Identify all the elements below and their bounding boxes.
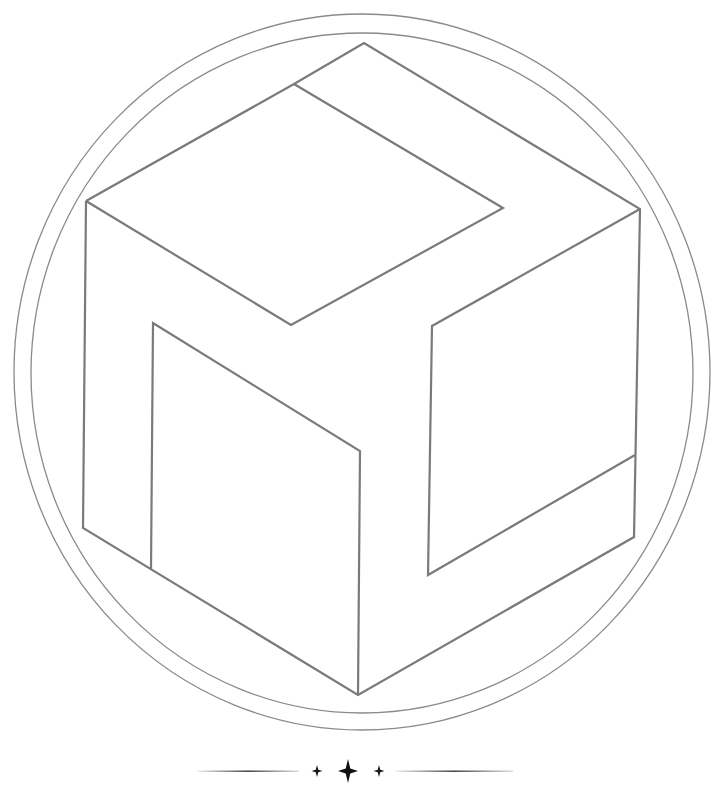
inner-circle: [31, 33, 693, 713]
divider-line-right: [395, 771, 513, 772]
cube-emblem: [0, 0, 719, 787]
top-face-panel: [86, 84, 503, 325]
small-star-left-icon: [312, 765, 323, 777]
outer-circle: [14, 14, 710, 730]
large-star-icon: [338, 759, 358, 783]
small-star-right-icon: [374, 765, 385, 777]
ornamental-divider: [0, 740, 719, 787]
divider-line-left: [197, 771, 299, 772]
double-circle-frame: [14, 14, 710, 730]
right-face-panel: [428, 209, 640, 575]
left-face-panel: [151, 323, 360, 695]
cube-outline-top-right: [83, 43, 640, 695]
cube-lines: [83, 43, 640, 695]
